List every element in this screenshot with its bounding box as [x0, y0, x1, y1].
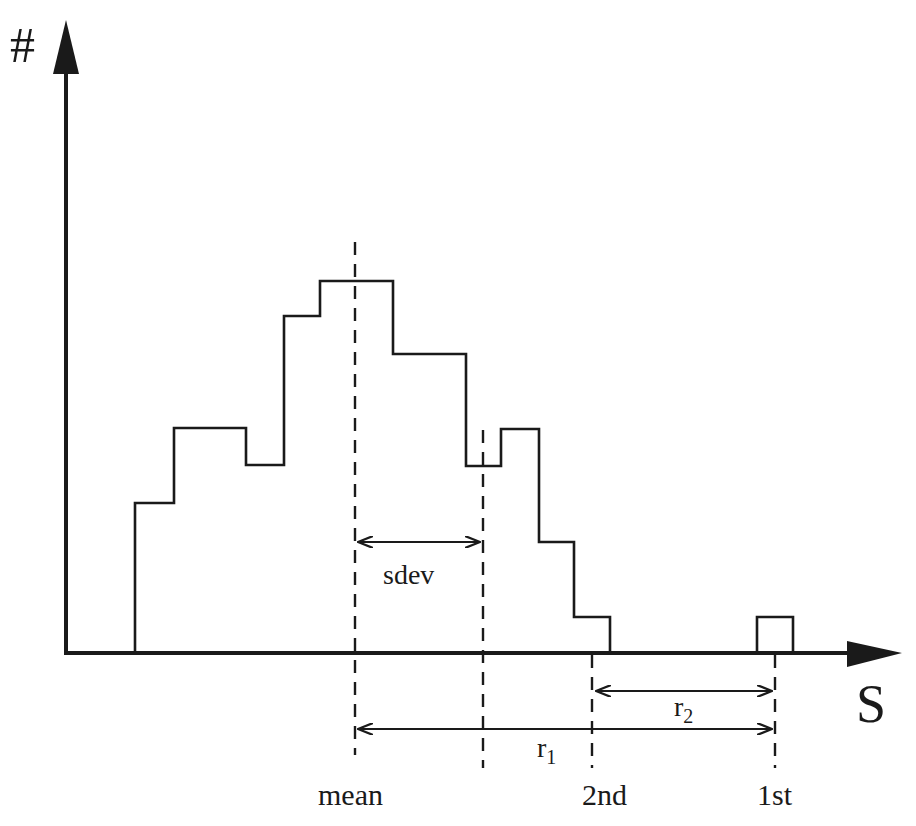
x-axis-arrowhead-icon — [847, 641, 902, 667]
y-axis — [53, 20, 79, 654]
second-label: 2nd — [582, 778, 627, 811]
y-axis-arrowhead-icon — [53, 20, 79, 74]
r2-label: r2 — [674, 691, 693, 727]
first-label: 1st — [757, 778, 793, 811]
histogram-outlier-bar — [757, 617, 793, 653]
histogram-bars — [135, 281, 610, 653]
mean-label: mean — [318, 778, 383, 811]
y-axis-label: # — [10, 17, 35, 73]
r1-label: r1 — [537, 732, 556, 768]
histogram-diagram: # S sdev r2 r1 mean 2nd 1st — [0, 0, 916, 826]
sdev-label: sdev — [383, 559, 434, 590]
x-axis-label: S — [856, 674, 886, 734]
